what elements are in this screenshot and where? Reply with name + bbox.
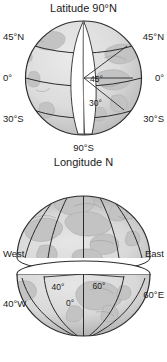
longitude-bowl-group — [11, 261, 150, 340]
bowl-angle-label-40: 40° — [52, 282, 65, 292]
latitude-globe-group — [18, 21, 142, 136]
latitude-pole-label: Latitude 90°N — [50, 2, 117, 14]
label-0-right: 0° — [155, 72, 164, 83]
bowl-angle-label-60: 60° — [93, 281, 106, 291]
label-60e: 60°E — [143, 289, 164, 300]
label-east: East — [145, 248, 164, 259]
angle-label-45: 45° — [90, 74, 103, 84]
diagram-canvas: Latitude 90°N 45°N 0° 30°S 45°N 0° 30°S … — [0, 0, 167, 362]
label-45n-left: 45°N — [3, 31, 24, 42]
label-90s: 90°S — [73, 142, 94, 153]
longitude-pole-label: Longitude N — [54, 156, 113, 168]
label-40w: 40°W — [3, 298, 26, 309]
angle-label-30: 30° — [89, 98, 102, 108]
label-45n-right: 45°N — [143, 31, 164, 42]
longitude-dome-group — [17, 170, 150, 271]
label-0-bowl: 0° — [66, 298, 74, 308]
label-30s-left: 30°S — [3, 113, 24, 124]
latitude-longitude-diagram: Latitude 90°N 45°N 0° 30°S 45°N 0° 30°S … — [0, 0, 167, 362]
label-0-left: 0° — [3, 72, 12, 83]
label-west: West — [3, 248, 25, 259]
label-30s-right: 30°S — [143, 113, 164, 124]
